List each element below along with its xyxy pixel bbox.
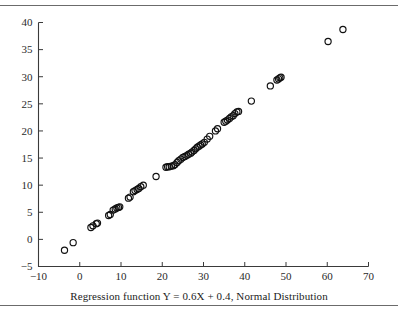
x-tick-label: 20 bbox=[157, 270, 169, 282]
x-tick-label: 30 bbox=[198, 270, 210, 282]
figure-top-rule bbox=[0, 5, 398, 6]
data-point bbox=[153, 173, 159, 179]
y-tick-labels: −50510152025303540 bbox=[21, 16, 33, 272]
x-tick-label: 60 bbox=[322, 270, 334, 282]
x-tick-labels: −10010203040506070 bbox=[30, 270, 375, 282]
y-tick-label: 10 bbox=[22, 179, 34, 191]
data-point bbox=[70, 240, 76, 246]
x-tick-label: 0 bbox=[77, 270, 83, 282]
x-tick-label: −10 bbox=[30, 270, 48, 282]
x-tick-label: 40 bbox=[239, 270, 251, 282]
data-point bbox=[61, 247, 67, 253]
x-axis-label-wrap: Regression function Y = 0.6X + 0.4, Norm… bbox=[0, 286, 398, 304]
x-tick-label: 10 bbox=[116, 270, 128, 282]
y-tick-label: 15 bbox=[22, 152, 34, 164]
data-point bbox=[267, 83, 273, 89]
data-point bbox=[325, 38, 331, 44]
y-tick-label: 30 bbox=[22, 71, 34, 83]
figure-bottom-rule bbox=[0, 305, 398, 306]
x-axis-label: Regression function Y = 0.6X + 0.4, Norm… bbox=[70, 290, 328, 302]
plot-area: −50510152025303540 −10010203040506070 bbox=[0, 8, 398, 286]
y-tick-label: 35 bbox=[22, 43, 34, 55]
y-tick-label: 5 bbox=[27, 206, 33, 218]
scatter-plot-svg: −50510152025303540 −10010203040506070 bbox=[0, 8, 398, 286]
y-tick-label: 40 bbox=[22, 16, 34, 28]
figure-container: −50510152025303540 −10010203040506070 Re… bbox=[0, 0, 398, 314]
x-tick-label: 70 bbox=[363, 270, 375, 282]
data-point bbox=[248, 98, 254, 104]
data-point bbox=[340, 26, 346, 32]
y-tick-label: 20 bbox=[22, 125, 34, 137]
data-point-markers bbox=[61, 26, 346, 253]
x-tick-label: 50 bbox=[281, 270, 293, 282]
y-tick-label: 25 bbox=[22, 98, 34, 110]
y-tick-label: 0 bbox=[27, 233, 33, 245]
